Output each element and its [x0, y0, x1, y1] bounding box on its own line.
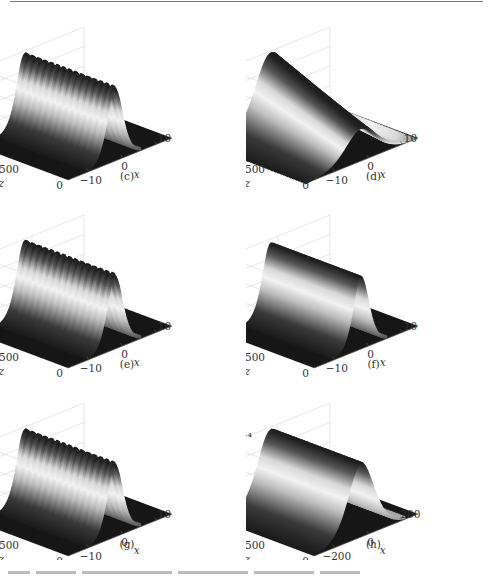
propagation-tick-label: 0	[56, 367, 63, 379]
panel-caption-g: (g)	[97, 538, 157, 550]
panel-g: 012|ψ|²05001000z−10010x(g)	[0, 380, 246, 560]
propagation-tick-label: 0	[56, 555, 63, 560]
soliton-ridge	[246, 54, 415, 184]
figure-grid: 012|ψ|²05001000z−10010x(c) 00.10.2|ψ|²05…	[0, 4, 493, 560]
propagation-tick-label: 0	[302, 179, 309, 191]
propagation-tick-label: 500	[246, 163, 265, 175]
panel-d: 00.10.2|ψ|²05001000z−10010x(d)	[246, 4, 493, 192]
panel-c: 012|ψ|²05001000z−10010x(c)	[0, 4, 246, 192]
propagation-tick-label: 0	[56, 179, 63, 191]
surface-plot-f: 012|ψ|²05001000z−10010x	[246, 192, 493, 380]
panel-caption-c: (c)	[97, 170, 157, 182]
x-tick-label: −200	[322, 550, 351, 560]
soliton-ridge	[246, 430, 406, 554]
surface-plot-d: 00.10.2|ψ|²05001000z−10010x	[246, 4, 493, 192]
propagation-tick-label: 0	[302, 555, 309, 560]
surface-plot-g: 012|ψ|²05001000z−10010x	[0, 380, 246, 560]
x-tick-label: 10	[158, 508, 171, 520]
surface-plot-e: 024|ψ|²05001000z−10010x	[0, 192, 246, 380]
propagation-tick-label: 500	[246, 351, 265, 363]
panel-e: 024|ψ|²05001000z−10010x(e)	[0, 192, 246, 380]
figure-caption-cropped	[8, 571, 485, 576]
x-tick-label: 200	[400, 508, 420, 520]
propagation-axis-label: z	[0, 553, 4, 560]
x-tick-label: 10	[158, 132, 171, 144]
panel-f: 012|ψ|²05001000z−10010x(f)	[246, 192, 493, 380]
propagation-tick-label: 500	[246, 539, 265, 551]
propagation-tick-label: 500	[0, 539, 19, 551]
propagation-axis-label: z	[246, 365, 250, 377]
propagation-tick-label: 500	[0, 163, 19, 175]
x-tick-label: −10	[80, 550, 102, 560]
propagation-axis-label: z	[246, 553, 250, 560]
surface-plot-h: 0246810×10⁻⁴|ψ|²05001000z−2000200x	[246, 380, 493, 560]
panel-caption-d: (d)	[344, 170, 404, 182]
panel-caption-f: (f)	[344, 358, 404, 370]
propagation-axis-label: z	[0, 177, 4, 189]
propagation-axis-label: z	[246, 177, 250, 189]
propagation-tick-label: 500	[0, 351, 19, 363]
x-tick-label: 10	[404, 132, 417, 144]
propagation-tick-label: 0	[302, 367, 309, 379]
panel-caption-e: (e)	[97, 358, 157, 370]
surface-plot-c: 012|ψ|²05001000z−10010x	[0, 4, 246, 192]
x-tick-label: 10	[158, 320, 171, 332]
x-tick-label: 10	[404, 320, 417, 332]
propagation-axis-label: z	[0, 365, 4, 377]
panel-h: 0246810×10⁻⁴|ψ|²05001000z−2000200x(h)	[246, 380, 493, 560]
exponent-label: ×10⁻⁴	[246, 431, 252, 443]
panel-caption-h: (h)	[344, 538, 404, 550]
top-rule	[10, 1, 483, 2]
